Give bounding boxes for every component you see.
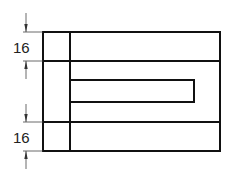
inner-slot — [70, 80, 194, 102]
arrow-up-icon — [24, 61, 27, 69]
dimension-label-bottom: 16 — [13, 129, 30, 146]
arrow-down-icon — [24, 24, 27, 32]
arrow-down-icon — [24, 114, 27, 122]
technical-drawing: 16 16 — [0, 0, 232, 177]
part-outline — [43, 32, 220, 151]
dimension-label-top: 16 — [13, 39, 30, 56]
arrow-up-icon — [24, 151, 27, 159]
